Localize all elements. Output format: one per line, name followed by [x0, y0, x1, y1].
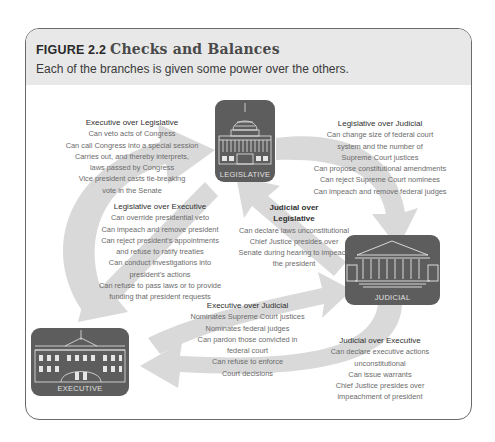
check-item: Can declare laws unconstitutional: [236, 225, 352, 236]
check-heading: Executive over Legislative: [52, 117, 212, 128]
check-item: system and the number of: [300, 141, 460, 152]
check-judicial-over-executive: Judicial over Executive Can declare exec…: [315, 335, 445, 403]
check-item: Chief Justice presides over: [315, 380, 445, 391]
check-item: Can issue warrants: [315, 369, 445, 380]
check-item: federal court: [175, 345, 320, 356]
check-item: Can override presidential veto: [90, 212, 230, 223]
check-item: Can refuse to pass laws or to provide: [90, 280, 230, 291]
check-item: vote in the Senate: [52, 185, 212, 196]
check-item: unconstitutional: [315, 358, 445, 369]
executive-branch-box: EXECUTIVE: [31, 328, 129, 396]
judicial-branch-box: JUDICIAL: [345, 235, 440, 305]
check-legislative-over-judicial: Legislative over Judicial Can change siz…: [300, 118, 460, 197]
check-item: Can pardon those convicted in: [175, 334, 320, 345]
check-judicial-over-legislative: Judicial over Legislative Can declare la…: [236, 202, 352, 270]
check-item: impeachment of president: [315, 391, 445, 402]
check-item: Can change size of federal court: [300, 129, 460, 140]
check-item: Supreme Court justices: [300, 152, 460, 163]
check-item: Can impeach and remove president: [90, 224, 230, 235]
supreme-court-building-icon: [345, 235, 440, 293]
check-item: Nominates federal judges: [175, 323, 320, 334]
check-item: Chief Justice presides over: [236, 236, 352, 247]
check-item: Can call Congress into a special session: [52, 140, 212, 151]
check-item: Carries out, and thereby interprets,: [52, 151, 212, 162]
check-heading: Judicial over: [236, 202, 352, 213]
check-executive-over-legislative: Executive over Legislative Can veto acts…: [52, 117, 212, 196]
judicial-label: JUDICIAL: [345, 293, 440, 302]
check-item: Can reject president's appointments: [90, 235, 230, 246]
check-item: laws passed by Congress: [52, 162, 212, 173]
check-heading: Legislative over Judicial: [300, 118, 460, 129]
check-item: Vice president casts tie-breaking: [52, 173, 212, 184]
check-heading: Judicial over Executive: [315, 335, 445, 346]
check-legislative-over-executive: Legislative over Executive Can override …: [90, 201, 230, 303]
white-house-icon: [31, 328, 129, 384]
check-item: president's actions: [90, 269, 230, 280]
check-item: Can veto acts of Congress: [52, 128, 212, 139]
legislative-label: LEGISLATIVE: [215, 170, 275, 179]
check-heading: Legislative: [236, 213, 352, 224]
check-item: Can refuse to enforce: [175, 356, 320, 367]
check-heading: Legislative over Executive: [90, 201, 230, 212]
check-item: Can conduct investigations into: [90, 257, 230, 268]
executive-label: EXECUTIVE: [31, 384, 129, 393]
check-item: Can declare executive actions: [315, 346, 445, 357]
check-item: Court decisions: [175, 368, 320, 379]
capitol-building-icon: [215, 100, 275, 170]
check-item: Can impeach and remove federal judges: [300, 186, 460, 197]
check-item: Senate during hearing to impeach: [236, 247, 352, 258]
check-item: Can reject Supreme Court nominees: [300, 174, 460, 185]
check-executive-over-judicial: Executive over Judicial Nominates Suprem…: [175, 300, 320, 379]
check-item: and refuse to ratify treaties: [90, 246, 230, 257]
legislative-branch-box: LEGISLATIVE: [215, 100, 275, 182]
check-item: the president: [236, 258, 352, 269]
check-item: Nominates Supreme Court justices: [175, 311, 320, 322]
check-heading: Executive over Judicial: [175, 300, 320, 311]
check-item: Can propose constitutional amendments: [300, 163, 460, 174]
